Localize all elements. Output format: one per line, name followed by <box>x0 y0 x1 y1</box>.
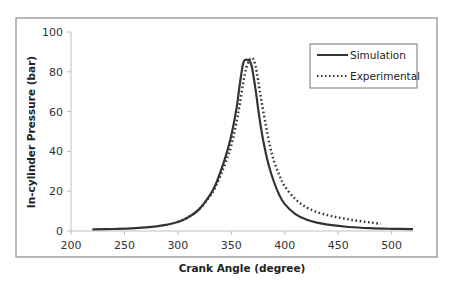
x-axis-title: Crank Angle (degree) <box>179 262 306 274</box>
x-tick-label: 450 <box>328 239 349 252</box>
chart: 020406080100200250300350400450500 In-cyl… <box>0 0 452 290</box>
y-tick-label: 100 <box>42 26 63 39</box>
y-tick-label: 60 <box>49 106 63 119</box>
y-axis-title: In-cylinder Pressure (bar) <box>25 56 37 208</box>
y-tick-label: 20 <box>49 185 63 198</box>
y-tick-label: 80 <box>49 66 63 79</box>
legend-label-simulation: Simulation <box>350 49 406 61</box>
x-tick-label: 200 <box>61 239 82 252</box>
x-tick-label: 300 <box>167 239 188 252</box>
x-tick-label: 500 <box>381 239 402 252</box>
x-tick-label: 400 <box>274 239 295 252</box>
x-tick-label: 250 <box>114 239 135 252</box>
legend-label-experimental: Experimental <box>350 70 420 82</box>
x-tick-label: 350 <box>221 239 242 252</box>
legend: Simulation Experimental <box>310 44 420 88</box>
y-tick-label: 40 <box>49 145 63 158</box>
y-tick-label: 0 <box>56 225 63 238</box>
